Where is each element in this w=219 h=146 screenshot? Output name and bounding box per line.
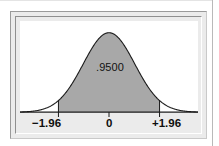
shaded-area-probability-value: .9500 [96,61,124,73]
x-axis-tick-labels: −1.96 0 +1.96 [20,117,198,135]
x-tick-label-negative-critical: −1.96 [32,117,61,129]
page-edge-rule-right [212,0,213,146]
normal-curve-figure: .9500 −1.96 0 +1.96 [0,0,219,146]
page-edge-rule-top [0,0,212,1]
x-tick-label-mean: 0 [106,117,112,129]
shaded-area-probability-label: .9500 [0,61,219,73]
x-tick-label-positive-critical: +1.96 [152,117,181,129]
